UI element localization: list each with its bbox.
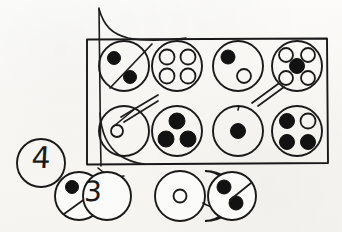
token-row1-col4 <box>272 41 322 91</box>
token-outline <box>208 172 256 220</box>
token-row1-col3 <box>213 41 263 91</box>
dot-open <box>111 125 123 137</box>
token-outline <box>99 106 149 156</box>
dot-open <box>301 48 315 62</box>
worksheet-sheet: 4 3 <box>0 0 342 232</box>
dot-solid <box>108 52 121 65</box>
token-outline <box>272 106 322 156</box>
dot-open <box>301 71 315 85</box>
token-outline <box>155 171 205 221</box>
token-lower-right-back <box>155 171 205 221</box>
dot-open <box>237 69 251 83</box>
token-row1-col2 <box>152 41 202 91</box>
hand-drawn-diagram <box>0 0 342 232</box>
dot-solid <box>280 114 295 129</box>
token-row2-col3 <box>213 106 263 156</box>
curved-sweep-line <box>98 8 186 176</box>
numeral-four-label: 4 <box>17 143 65 173</box>
token-row2-col4 <box>272 106 322 156</box>
token-outline <box>152 41 202 91</box>
flourish-top-curve <box>99 9 186 40</box>
dot-solid <box>217 180 231 194</box>
token-outline <box>99 41 149 91</box>
dot-open <box>279 71 293 85</box>
dot-solid <box>221 50 235 64</box>
dot-open <box>181 69 196 84</box>
dot-solid <box>301 135 316 150</box>
dot-solid <box>231 124 246 139</box>
dot-open <box>160 69 175 84</box>
dot-open <box>181 50 196 65</box>
dot-solid <box>169 113 185 129</box>
token-outline <box>213 41 263 91</box>
dot-solid <box>290 59 305 74</box>
dot-open <box>301 114 316 129</box>
token-row2-col1 <box>99 95 158 156</box>
dot-open <box>279 48 293 62</box>
dot-solid <box>158 131 174 147</box>
token-row1-col1 <box>99 41 152 91</box>
numeral-three-label: 3 <box>73 178 114 206</box>
token-row2-col2 <box>152 106 202 156</box>
dot-open <box>160 50 175 65</box>
dot-solid <box>180 131 196 147</box>
dot-solid <box>280 135 295 150</box>
pointer-arrow-tip <box>238 106 239 110</box>
tally-marks-row1-col4-left <box>252 84 284 106</box>
token-lower-right-front <box>208 172 256 220</box>
